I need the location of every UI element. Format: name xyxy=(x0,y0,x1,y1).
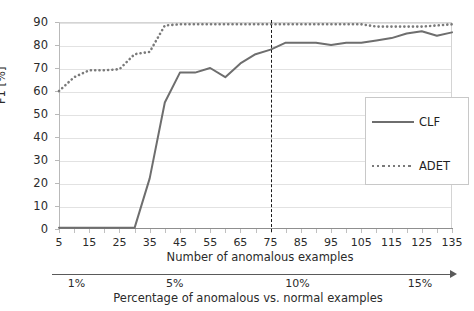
x-axis-title-text: Number of anomalous examples xyxy=(121,250,354,264)
percentage-axis-title-text: Percentage of anomalous vs. normal examp… xyxy=(91,291,382,305)
x-axis-minor-tick-mark xyxy=(195,229,196,233)
y-axis-tick-mark xyxy=(55,68,59,69)
x-axis-minor-tick-mark xyxy=(256,229,257,233)
y-axis-tick-label: 90 xyxy=(8,17,48,27)
legend-label-clf: CLF xyxy=(419,115,440,129)
x-axis-tick-mark xyxy=(392,229,393,233)
x-axis-minor-tick-mark xyxy=(286,229,287,233)
threshold-vline xyxy=(271,20,272,232)
y-axis-tick-mark xyxy=(55,206,59,207)
legend-entry-clf: CLF xyxy=(366,112,470,132)
y-axis-tick-mark xyxy=(55,183,59,184)
x-axis-tick-label: 135 xyxy=(432,236,472,249)
gridline xyxy=(60,207,451,208)
x-axis-tick-mark xyxy=(452,229,453,233)
x-axis-minor-tick-mark xyxy=(135,229,136,233)
gridline xyxy=(60,92,451,93)
x-axis-minor-tick-mark xyxy=(376,229,377,233)
percentage-axis-line xyxy=(52,274,452,275)
x-axis-minor-tick-mark xyxy=(165,229,166,233)
x-axis-tick-mark xyxy=(361,229,362,233)
x-axis-minor-tick-mark xyxy=(346,229,347,233)
x-axis-minor-tick-mark xyxy=(407,229,408,233)
x-axis-minor-tick-mark xyxy=(104,229,105,233)
percentage-axis-tick-label: 15% xyxy=(395,277,445,290)
y-axis-title: F1 [%] xyxy=(0,67,8,105)
y-axis-tick-label: 0 xyxy=(8,224,48,234)
percentage-axis-tick-label: 1% xyxy=(52,277,102,290)
y-axis-tick-label: 50 xyxy=(8,109,48,119)
y-axis-tick-mark xyxy=(55,45,59,46)
x-axis-tick-mark xyxy=(422,229,423,233)
legend-label-adet: ADET xyxy=(419,159,450,173)
y-axis-tick-label: 70 xyxy=(8,63,48,73)
y-axis-tick-label: 80 xyxy=(8,40,48,50)
y-axis-tick-mark xyxy=(55,22,59,23)
chart-figure: 0102030405060708090 F1 [%] 5152535455565… xyxy=(0,0,474,311)
y-axis-tick-label: 60 xyxy=(8,86,48,96)
y-axis-tick-label: 10 xyxy=(8,201,48,211)
x-axis-tick-mark xyxy=(331,229,332,233)
x-axis-tick-mark xyxy=(301,229,302,233)
legend-line-solid-icon xyxy=(372,116,414,128)
percentage-axis-tick-label: 5% xyxy=(150,277,200,290)
x-axis-tick-mark xyxy=(210,229,211,233)
x-axis-tick-mark xyxy=(240,229,241,233)
y-axis-tick-label: 20 xyxy=(8,178,48,188)
y-axis-tick-mark xyxy=(55,137,59,138)
x-axis-tick-mark xyxy=(180,229,181,233)
x-axis-tick-mark xyxy=(59,229,60,233)
y-axis-tick-mark xyxy=(55,91,59,92)
percentage-axis-tick-label: 10% xyxy=(272,277,322,290)
legend-entry-adet: ADET xyxy=(366,156,470,176)
y-axis-tick-label: 40 xyxy=(8,132,48,142)
x-axis-minor-tick-mark xyxy=(437,229,438,233)
chart-legend: CLF ADET xyxy=(365,97,469,185)
gridline xyxy=(60,69,451,70)
gridline xyxy=(60,46,451,47)
percentage-axis-arrow-icon xyxy=(450,270,457,278)
x-axis-title: Number of anomalous examples xyxy=(0,250,474,264)
y-axis-tick-label: 30 xyxy=(8,155,48,165)
x-axis-tick-mark xyxy=(150,229,151,233)
legend-line-dotted-icon xyxy=(372,160,414,172)
x-axis-tick-mark xyxy=(119,229,120,233)
x-axis-tick-mark xyxy=(89,229,90,233)
x-axis-minor-tick-mark xyxy=(74,229,75,233)
y-axis-tick-mark xyxy=(55,114,59,115)
percentage-axis-title: Percentage of anomalous vs. normal examp… xyxy=(0,291,474,305)
x-axis-minor-tick-mark xyxy=(225,229,226,233)
gridline xyxy=(60,23,451,24)
y-axis-tick-mark xyxy=(55,160,59,161)
x-axis-minor-tick-mark xyxy=(316,229,317,233)
